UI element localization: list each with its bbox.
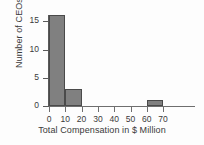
y-tick-label-0: 0 (34, 100, 39, 110)
x-tick-label-30: 30 (93, 114, 102, 124)
x-axis-label: Total Compensation in $ Million (0, 125, 204, 135)
bar-0-10 (49, 15, 65, 106)
y-tick-label-5: 5 (34, 72, 39, 82)
x-tick-70 (163, 106, 164, 112)
x-tick-40 (114, 106, 115, 112)
bar-10-20 (65, 89, 81, 106)
y-tick-label-15: 15 (30, 15, 39, 25)
plot-area: 15 10 5 0 0 10 20 30 40 50 60 70 (48, 15, 195, 106)
x-tick-20 (82, 106, 83, 112)
x-tick-label-20: 20 (77, 114, 86, 124)
x-tick-0 (49, 106, 50, 112)
x-tick-50 (131, 106, 132, 112)
y-tick-label-10: 10 (30, 44, 39, 54)
x-tick-label-40: 40 (109, 114, 118, 124)
x-tick-label-50: 50 (126, 114, 135, 124)
x-tick-label-10: 10 (61, 114, 70, 124)
y-axis-label: Number of CEOs (14, 0, 24, 88)
x-tick-10 (65, 106, 66, 112)
x-tick-30 (98, 106, 99, 112)
x-axis-line (48, 106, 195, 107)
bar-60-70 (147, 100, 163, 106)
x-tick-label-60: 60 (142, 114, 151, 124)
x-tick-label-0: 0 (47, 114, 52, 124)
x-tick-60 (147, 106, 148, 112)
x-tick-label-70: 70 (158, 114, 167, 124)
histogram-chart: Number of CEOs 15 10 5 0 0 10 20 30 40 5… (0, 0, 204, 145)
